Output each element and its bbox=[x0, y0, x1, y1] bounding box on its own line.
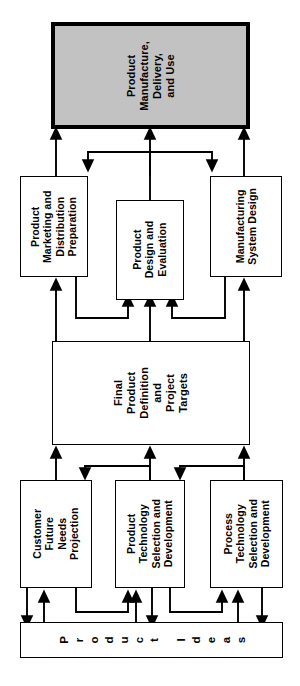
node-product-technology-selection-development[interactable]: Product Technology Selection and Develop… bbox=[115, 480, 185, 588]
ideas-letter: a bbox=[219, 633, 231, 648]
ideas-letter: t bbox=[147, 633, 159, 648]
ideas-letter: o bbox=[87, 633, 99, 648]
process-flow-diagram: Product Manufacture, Delivery, and Use P… bbox=[0, 0, 300, 686]
node-label: Manufacturing System Design bbox=[234, 188, 259, 265]
node-label: Process Technology Selection and Develop… bbox=[222, 499, 272, 569]
node-label: Product Design and Evaluation bbox=[131, 221, 168, 279]
node-manufacturing-system-design[interactable]: Manufacturing System Design bbox=[210, 176, 282, 277]
ideas-letter: c bbox=[132, 633, 144, 648]
node-label: Customer Future Needs Projection bbox=[31, 508, 81, 560]
node-label: Final Product Definition and Project Tar… bbox=[112, 367, 190, 419]
ideas-letter: e bbox=[204, 633, 216, 648]
node-process-technology-selection-development[interactable]: Process Technology Selection and Develop… bbox=[210, 480, 283, 588]
node-label: Product Manufacture, Delivery, and Use bbox=[125, 41, 177, 111]
node-product-design-evaluation[interactable]: Product Design and Evaluation bbox=[116, 200, 184, 300]
ideas-letter: d bbox=[102, 633, 114, 648]
ideas-letter: r bbox=[72, 633, 84, 648]
node-label-letters: Product Ideas bbox=[56, 634, 248, 646]
node-product-manufacture-delivery-use[interactable]: Product Manufacture, Delivery, and Use bbox=[51, 22, 250, 129]
node-product-ideas[interactable]: Product Ideas bbox=[20, 622, 283, 658]
node-label: Product Technology Selection and Develop… bbox=[125, 499, 175, 569]
ideas-letter bbox=[161, 634, 173, 646]
node-product-marketing-distribution-preparation[interactable]: Product Marketing and Distribution Prepa… bbox=[20, 176, 88, 277]
node-customer-future-needs-projection[interactable]: Customer Future Needs Projection bbox=[20, 480, 92, 588]
ideas-letter: u bbox=[117, 633, 129, 648]
ideas-letter: I bbox=[174, 633, 186, 648]
node-label: Product Marketing and Distribution Prepa… bbox=[29, 190, 79, 262]
ideas-letter: s bbox=[234, 633, 246, 648]
ideas-letter: d bbox=[189, 633, 201, 648]
node-final-product-definition-project-targets[interactable]: Final Product Definition and Project Tar… bbox=[52, 341, 250, 445]
ideas-letter: P bbox=[57, 633, 69, 648]
